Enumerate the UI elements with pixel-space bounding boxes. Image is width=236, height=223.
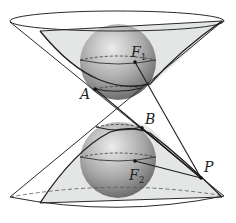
- label-F2: F2: [129, 168, 144, 185]
- label-F1: F1: [131, 45, 146, 62]
- label-B: B: [145, 112, 155, 126]
- point-A: [93, 87, 97, 91]
- point-F2: [133, 159, 137, 163]
- point-B: [140, 126, 144, 130]
- label-A: A: [80, 87, 90, 101]
- dandelin-spheres-diagram: F1 A B P F2: [0, 0, 236, 223]
- diagram-canvas: [0, 0, 236, 223]
- label-P: P: [204, 160, 213, 174]
- point-P: [199, 176, 203, 180]
- lower-sphere: [80, 122, 156, 198]
